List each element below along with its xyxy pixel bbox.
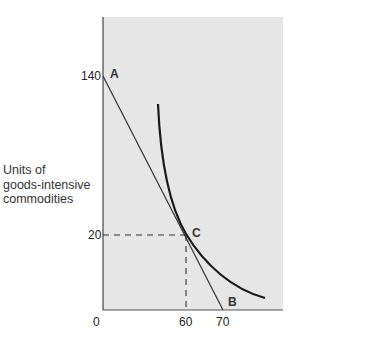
y-tick-140: 140 [81,69,101,83]
x-tick-0: 0 [93,315,100,329]
x-tick-70: 70 [216,315,229,329]
y-tick-20: 20 [88,228,101,242]
budget-line-ab [103,76,223,310]
y-axis-label: Units of goods-intensive commodities [3,163,91,207]
y-axis-label-line-2: goods-intensive [3,178,91,193]
point-b-label: B [228,295,237,309]
indifference-curve [158,104,265,298]
point-c-label: C [192,226,201,240]
y-axis-label-line-1: Units of [3,163,91,178]
y-axis-label-line-3: commodities [3,192,91,207]
point-a-label: A [110,67,119,81]
x-tick-60: 60 [179,315,192,329]
